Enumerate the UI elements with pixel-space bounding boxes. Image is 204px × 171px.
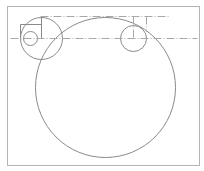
cad-drawing-canvas <box>0 0 204 171</box>
drawing-frame <box>8 7 200 166</box>
centerlines-group <box>11 17 198 39</box>
